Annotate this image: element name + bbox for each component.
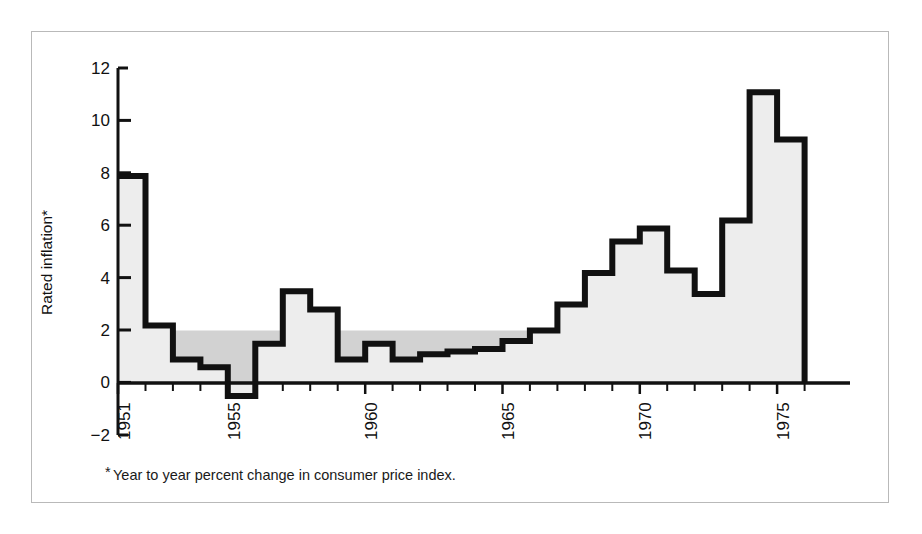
y-tick-label-10: 10 xyxy=(91,111,110,130)
x-tick-label-1965: 1965 xyxy=(499,402,518,440)
x-axis-tick-labels: 1951 1955 1960 1965 1970 1975 xyxy=(115,402,793,440)
y-tick-label-6: 6 xyxy=(101,216,110,235)
x-tick-label-1960: 1960 xyxy=(362,402,381,440)
figure-page: 12 10 8 6 4 2 0 −2 Rated inflation* xyxy=(0,0,922,534)
y-tick-label-2: 2 xyxy=(101,321,110,340)
footnote-asterisk: * xyxy=(105,464,111,480)
x-tick-label-1970: 1970 xyxy=(636,402,655,440)
y-tick-label-0: 0 xyxy=(101,373,110,392)
inflation-step-chart: 12 10 8 6 4 2 0 −2 Rated inflation* xyxy=(0,0,922,534)
y-axis-title: Rated inflation* xyxy=(38,210,55,315)
y-tick-label-neg2: −2 xyxy=(91,426,110,445)
y-axis-tick-labels: 12 10 8 6 4 2 0 −2 xyxy=(91,59,110,445)
x-tick-label-1975: 1975 xyxy=(774,402,793,440)
x-tick-label-1955: 1955 xyxy=(225,402,244,440)
x-axis xyxy=(118,383,850,394)
footnote-text: Year to year percent change in consumer … xyxy=(113,467,456,483)
x-tick-label-1951: 1951 xyxy=(115,402,134,440)
y-tick-label-4: 4 xyxy=(101,269,110,288)
y-tick-label-12: 12 xyxy=(91,59,110,78)
y-tick-label-8: 8 xyxy=(101,164,110,183)
chart-footnote: * Year to year percent change in consume… xyxy=(105,464,456,483)
